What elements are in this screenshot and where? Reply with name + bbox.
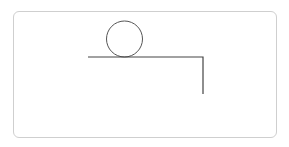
- diagram-canvas: [0, 0, 289, 147]
- ledge-line: [88, 57, 203, 94]
- ball-circle: [107, 21, 143, 57]
